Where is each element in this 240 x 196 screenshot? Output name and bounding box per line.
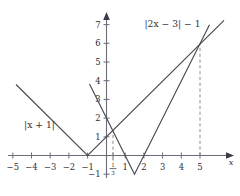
curve-abs-x-plus-1 [16, 20, 224, 155]
y-tick-label: 4 [95, 76, 100, 86]
y-axis-arrowhead [103, 12, 110, 20]
y-tick-label-negative: −1 [88, 169, 100, 179]
graph-figure: −5 −4 −3 −2 −1 1 2 3 4 5 1 3 1 2 3 4 5 6… [0, 0, 240, 196]
x-tick-label: 1 [123, 162, 128, 172]
y-tick-label: 5 [95, 57, 100, 67]
fraction-denominator: 3 [111, 170, 115, 176]
x-tick-label: −3 [44, 162, 56, 172]
x-tick-label: −2 [63, 162, 75, 172]
function-plot: −5 −4 −3 −2 −1 1 2 3 4 5 1 3 1 2 3 4 5 6… [0, 0, 240, 196]
x-tick-labels: −5 −4 −3 −2 −1 1 2 3 4 5 [7, 162, 203, 172]
x-tick-label: 2 [141, 162, 146, 172]
y-tick-label: 6 [95, 38, 100, 48]
y-tick-label: 2 [95, 113, 100, 123]
x-tick-label-fraction: 1 3 [110, 162, 117, 175]
x-tick-label: 4 [179, 162, 184, 172]
x-axis-label: x [229, 157, 234, 167]
y-tick-label: 7 [95, 20, 100, 30]
x-tick-label: 5 [197, 162, 202, 172]
fraction-numerator: 1 [111, 162, 115, 168]
y-tick-label: 1 [95, 132, 100, 142]
x-tick-label: −4 [25, 162, 37, 172]
x-tick-label: 3 [160, 162, 165, 172]
x-tick-label: −5 [7, 162, 19, 172]
label-right-function: |2x − 3| − 1 [145, 18, 201, 30]
label-left-function: |x + 1| [24, 119, 55, 131]
